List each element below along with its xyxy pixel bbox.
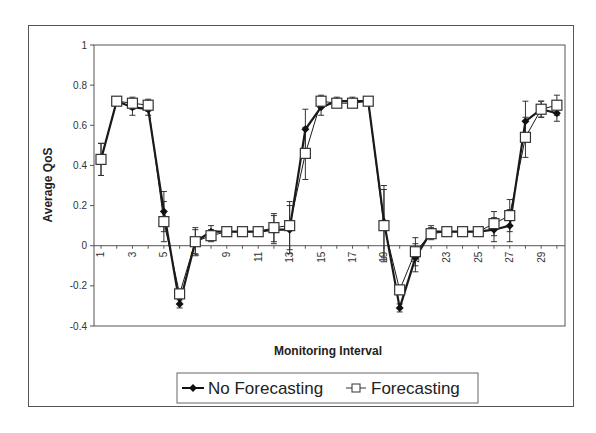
open-square-marker <box>159 217 169 227</box>
y-tick-label: -0.2 <box>70 280 88 291</box>
open-square-marker <box>348 98 358 108</box>
y-tick-label: 0.8 <box>73 80 87 91</box>
y-tick-label: 0.6 <box>73 120 87 131</box>
x-tick-label: 15 <box>316 251 327 263</box>
open-square-marker <box>222 227 232 237</box>
open-square-marker <box>206 231 216 241</box>
x-tick-label: 17 <box>347 251 358 263</box>
x-tick-label: 23 <box>441 251 452 263</box>
open-square-marker <box>332 98 342 108</box>
plot-border <box>94 45 565 326</box>
open-square-marker <box>552 100 562 110</box>
open-square-marker <box>410 247 420 257</box>
open-square-marker <box>473 227 483 237</box>
x-tick-label: 5 <box>158 251 169 257</box>
open-square-marker <box>363 96 373 106</box>
x-tick-label: 29 <box>536 251 547 263</box>
x-tick-label: 11 <box>253 251 264 262</box>
open-square-marker <box>316 96 326 106</box>
x-tick-label: 25 <box>473 251 484 263</box>
open-square-marker <box>190 237 200 247</box>
open-square-marker <box>300 148 310 158</box>
legend: No Forecasting Forecasting <box>177 373 478 403</box>
plot-area <box>94 45 565 326</box>
open-square-marker <box>505 211 515 221</box>
open-square-marker <box>536 104 546 114</box>
open-square-marker <box>426 229 436 239</box>
open-square-marker <box>489 219 499 229</box>
y-tick-label: 0.4 <box>73 160 87 171</box>
x-tick-label: 9 <box>221 251 232 257</box>
open-square-marker <box>175 289 185 299</box>
open-square-marker <box>379 221 389 231</box>
x-axis-title: Monitoring Interval <box>274 344 382 358</box>
open-square-marker <box>143 100 153 110</box>
open-square-icon <box>352 384 360 392</box>
y-axis: -0.4-0.200.20.40.60.81 <box>70 40 94 332</box>
y-tick-label: 0.2 <box>73 200 87 211</box>
x-tick-label: 1 <box>96 251 107 257</box>
x-tick-label: 27 <box>504 251 515 263</box>
open-square-marker <box>112 96 122 106</box>
y-tick-label: -0.4 <box>70 321 88 332</box>
open-square-marker <box>127 98 137 108</box>
legend-label-forecasting: Forecasting <box>371 379 460 398</box>
open-square-marker <box>237 227 247 237</box>
open-square-marker <box>96 154 106 164</box>
y-axis-title: Average QoS <box>41 148 55 223</box>
x-tick-label: 3 <box>127 251 138 257</box>
open-square-marker <box>253 227 263 237</box>
open-square-marker <box>442 227 452 237</box>
y-tick-label: 0 <box>81 240 87 251</box>
y-tick-label: 1 <box>81 40 87 51</box>
open-square-marker <box>395 285 405 295</box>
open-square-marker <box>285 221 295 231</box>
line-chart: -0.4-0.200.20.40.60.81 13579111315171921… <box>0 0 596 433</box>
legend-label-no-forecasting: No Forecasting <box>208 379 323 398</box>
open-square-marker <box>520 132 530 142</box>
open-square-marker <box>458 227 468 237</box>
open-square-marker <box>269 223 279 233</box>
